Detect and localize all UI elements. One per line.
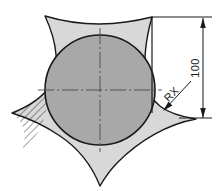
- overall-height-dimension: 100: [152, 17, 212, 118]
- dimension-arrow-bottom: [200, 108, 206, 118]
- radius-leader-label: RX: [161, 84, 181, 104]
- dimension-value-100: 100: [189, 58, 201, 78]
- dimension-arrow-top: [200, 18, 206, 28]
- engineering-drawing-svg: 100 RX: [0, 0, 217, 191]
- technical-drawing-canvas: 100 RX: [0, 0, 217, 191]
- radius-leader: RX: [161, 81, 191, 111]
